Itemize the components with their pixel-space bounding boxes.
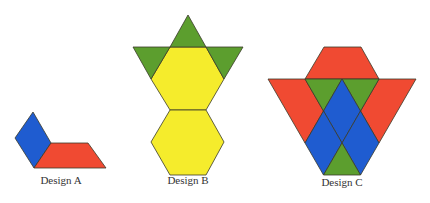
design-b-label: Design B [167,174,208,186]
red-trapezoid-top [305,47,379,79]
design-c: Design C [268,47,416,188]
green-triangle-top [170,15,206,47]
pattern-block-designs: Design A Design B Design C [0,0,430,203]
yellow-hexagon-bottom [151,110,224,175]
design-b: Design B [133,15,243,186]
design-a-label: Design A [40,174,81,186]
design-a: Design A [15,112,106,186]
design-c-label: Design C [321,176,362,188]
